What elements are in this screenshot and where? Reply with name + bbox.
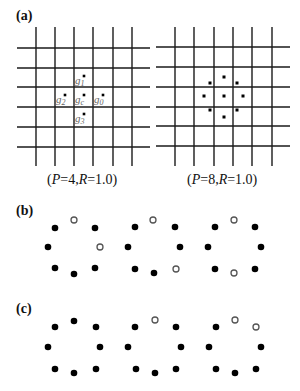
caption-P-value: =4, [60,172,78,187]
filled-point [93,324,100,331]
filled-point [133,366,140,373]
filled-point [97,344,104,351]
sample-point [242,95,245,98]
filled-point [173,366,180,373]
filled-point [71,318,78,325]
filled-point [205,244,212,251]
filled-point [132,266,139,273]
open-point [231,217,237,223]
open-point [253,324,259,330]
neighborhood-pattern [125,317,185,376]
right-grid-sample-points [203,76,245,119]
filled-point [151,270,158,277]
filled-point [173,324,180,331]
sample-point [203,95,206,98]
open-point [232,317,238,323]
neighborhood-pattern [125,217,184,276]
sample-point [223,76,226,79]
filled-point [213,324,220,331]
caption-R: R [79,172,88,187]
filled-point [178,344,185,351]
sample-point [223,95,226,98]
filled-point [71,271,78,278]
point-label-g0: g0 [94,94,104,108]
point-label-g2: g2 [56,94,66,108]
open-point [231,270,237,276]
filled-point [52,265,59,272]
sample-point [223,116,226,119]
caption-left-grid: (P=4,R=1.0) [47,172,117,188]
filled-point [93,366,100,373]
caption-R: R [219,172,228,187]
filled-point [71,370,78,377]
filled-point [212,224,219,231]
filled-point [206,344,213,351]
filled-point [252,224,259,231]
open-point [97,244,103,250]
caption-right-grid: (P=8,R=1.0) [187,172,257,188]
filled-point [172,224,179,231]
open-point [71,217,77,223]
filled-point [253,366,260,373]
neighborhood-pattern [205,217,265,276]
filled-point [212,266,219,273]
caption-P: P [192,172,201,187]
caption-R-value: =1.0) [87,172,117,187]
sample-point [209,82,212,85]
neighborhood-pattern [206,317,265,376]
filled-point [258,344,265,351]
filled-point [132,324,139,331]
diagram-canvas [0,0,300,391]
filled-point [45,344,52,351]
filled-point [177,244,184,251]
caption-P: P [52,172,61,187]
caption-R-value: =1.0) [227,172,257,187]
panel-b-patterns [45,217,265,277]
point-label-g3: g3 [75,113,85,127]
filled-point [152,370,159,377]
filled-point [92,225,99,232]
filled-point [232,370,239,377]
filled-point [132,224,139,231]
filled-point [52,366,59,373]
sample-point [236,82,239,85]
caption-P-value: =8, [200,172,218,187]
open-point [173,266,179,272]
panel-c-patterns [45,317,265,376]
filled-point [125,244,132,251]
point-label-g1: g1 [75,75,85,89]
open-point [152,317,158,323]
open-point [150,217,156,223]
filled-point [252,266,259,273]
filled-point [213,366,220,373]
filled-point [125,344,132,351]
filled-point [52,324,59,331]
sample-point [209,109,212,112]
filled-point [92,265,99,272]
sample-point [236,109,239,112]
filled-point [258,244,265,251]
neighborhood-pattern [45,217,103,277]
neighborhood-pattern [45,318,104,377]
filled-point [45,244,52,251]
point-label-gc: gc [75,94,84,108]
filled-point [52,225,59,232]
